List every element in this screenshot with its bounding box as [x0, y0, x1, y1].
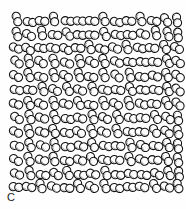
dimer-particle	[122, 16, 137, 26]
dimer-particle	[148, 155, 163, 165]
dimer-particle	[148, 57, 163, 67]
dimer-particle	[147, 99, 162, 109]
dimer-particle	[71, 43, 86, 53]
panel-label: C	[7, 191, 15, 204]
dimer-particle	[123, 30, 138, 40]
dimer-particle	[111, 170, 126, 180]
dimer-particle	[136, 113, 151, 123]
dimer-particle	[48, 30, 63, 40]
dimer-particle	[85, 30, 99, 39]
dimer-particle	[85, 16, 100, 26]
dimer-particle	[145, 43, 160, 53]
dimer-particle	[135, 127, 150, 137]
dimer-particle	[110, 155, 125, 165]
dimer-particle-field	[0, 0, 186, 209]
dimer-particle	[111, 141, 126, 151]
dimer-particle	[173, 28, 183, 43]
dimer-particle	[23, 85, 38, 95]
dimer-particle	[60, 183, 75, 193]
dimer-particle	[61, 142, 76, 152]
figure-panel-c: C	[0, 0, 186, 209]
dimer-particle	[135, 72, 150, 82]
dimer-particle	[35, 16, 50, 26]
dimer-particle	[136, 85, 151, 95]
